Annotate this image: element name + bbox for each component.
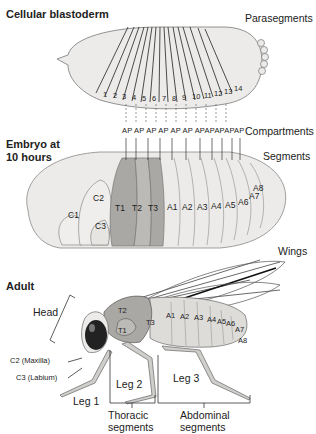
adult-seg-a1: A1	[166, 311, 175, 320]
embryo-seg-a5: A5	[225, 200, 235, 210]
adult-seg-a4: A4	[207, 315, 216, 324]
blastoderm-title: Cellular blastoderm	[6, 8, 109, 20]
leg2-label: Leg 2	[116, 378, 142, 390]
embryo-seg-a6: A6	[238, 197, 248, 207]
c2-maxilla-label: C2 (Maxilla)	[10, 356, 50, 365]
parasegment-number: 2	[113, 91, 117, 100]
adult-seg-a5: A5	[217, 317, 226, 326]
parasegment-number: 11	[204, 91, 212, 100]
embryo-seg-a8: A8	[253, 183, 263, 193]
abdominal-label-line2: segments	[180, 421, 226, 433]
parasegment-number: 4	[132, 93, 136, 102]
embryo-title-line1: Embryo at	[6, 138, 60, 150]
adult-seg-t1: T1	[118, 326, 127, 335]
embryo-title-line2: 10 hours	[6, 151, 52, 163]
embryo-seg-t1: T1	[115, 203, 125, 213]
adult-seg-a6: A6	[226, 319, 235, 328]
parasegment-number: 7	[162, 94, 166, 103]
adult-seg-a3: A3	[194, 313, 203, 322]
parasegment-number: 8	[172, 94, 176, 103]
embryo-seg-c3: C3	[95, 221, 106, 231]
parasegment-number: 10	[192, 92, 200, 101]
diagram-canvas	[0, 0, 316, 434]
adult-seg-a2: A2	[180, 312, 189, 321]
embryo-seg-c1: C1	[68, 210, 79, 220]
segments-label: Segments	[263, 150, 310, 162]
adult-title: Adult	[6, 280, 34, 292]
adult-seg-t3: T3	[146, 318, 155, 327]
parasegment-number: 12	[214, 89, 222, 98]
embryo-seg-a4: A4	[211, 201, 221, 211]
embryo-seg-t3: T3	[148, 203, 158, 213]
embryo-seg-a3: A3	[197, 202, 207, 212]
parasegments-label: Parasegments	[245, 12, 313, 24]
adult-seg-a8: A8	[238, 336, 247, 345]
adult-fly	[50, 260, 285, 408]
embryo	[27, 138, 286, 248]
c3-labium-label: C3 (Labium)	[16, 373, 57, 382]
leg3-label: Leg 3	[173, 372, 199, 384]
parasegment-number: 13	[224, 87, 232, 96]
compartments-row: AP AP AP AP AP AP APAPAPAPAP	[122, 126, 245, 135]
wings-label: Wings	[278, 245, 307, 257]
embryo-seg-a2: A2	[182, 202, 192, 212]
thoracic-label-line2: segments	[108, 421, 154, 433]
abdominal-label-line1: Abdominal	[180, 409, 230, 421]
parasegment-number: 3	[122, 92, 126, 101]
embryo-seg-a1: A1	[167, 202, 177, 212]
adult-seg-t2: T2	[118, 306, 127, 315]
parasegment-number: 1	[103, 90, 107, 99]
embryo-seg-c2: C2	[93, 193, 104, 203]
parasegment-number: 5	[142, 94, 146, 103]
head-bracket	[50, 295, 75, 343]
head-label: Head	[33, 306, 58, 318]
embryo-seg-t2: T2	[132, 203, 142, 213]
blastoderm-egg	[57, 27, 269, 124]
parasegment-number: 6	[152, 94, 156, 103]
leg1-label: Leg 1	[73, 395, 99, 407]
parasegment-number: 14	[234, 84, 242, 93]
compartments-label: Compartments	[245, 125, 314, 137]
thoracic-label-line1: Thoracic	[108, 409, 148, 421]
parasegment-number: 9	[182, 93, 186, 102]
adult-seg-a7: A7	[235, 325, 244, 334]
